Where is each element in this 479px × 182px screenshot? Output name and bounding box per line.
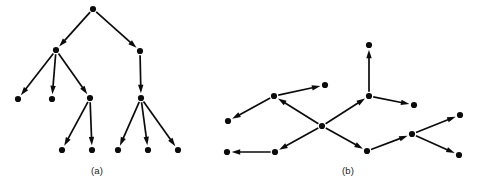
nodes-layer [15,6,463,158]
graph-node-b9 [409,131,415,137]
edge-a2-to-a4 [25,53,53,89]
graph-node-a10 [115,147,121,153]
graph-node-a3 [137,48,143,54]
edge-a7-to-a11 [142,102,147,138]
edge-group-panel-b [232,50,456,155]
graph-node-a1 [90,6,96,12]
graph-node-a4 [15,96,21,102]
arrowhead-b3-to-b2 [312,85,321,90]
arrowhead-a6-to-a9 [89,137,94,146]
graph-node-a5 [49,96,55,102]
graph-node-a8 [59,147,65,153]
edge-b7-to-b3 [284,102,318,124]
edge-a6-to-a9 [90,102,91,138]
arrowhead-a7-to-a10 [120,137,126,146]
edge-group-panel-a [21,12,175,146]
edge-a2-to-a6 [58,54,83,89]
edge-a6-to-a8 [68,102,88,140]
graph-node-b2 [322,82,328,88]
arrowhead-b7-to-b11 [279,143,288,149]
edge-a3-to-a7 [140,55,141,86]
graph-node-a11 [145,147,151,153]
edge-b3-to-b6 [238,98,270,115]
graph-node-b6 [225,118,231,124]
arrowhead-b9-to-b8 [447,117,456,123]
edge-a7-to-a12 [143,102,171,141]
edge-b9-to-b13 [416,136,448,150]
graph-node-a7 [138,95,144,101]
arrowhead-b3-to-b6 [232,112,241,118]
edges-layer [21,12,456,155]
graph-canvas [0,0,479,182]
graph-node-a6 [87,95,93,101]
arrowhead-b9-to-b13 [446,147,455,153]
arrowhead-b4-to-b1 [366,50,371,59]
arrowhead-a3-to-a7 [138,85,143,94]
arrowhead-b11-to-b10 [232,149,241,154]
graph-node-b1 [366,42,372,48]
edge-b12-to-b9 [371,138,401,149]
edge-b7-to-b12 [326,128,357,145]
arrowhead-b7-to-b3 [278,98,287,105]
figure-root: (a)(b) [0,0,479,182]
graph-node-a9 [89,147,95,153]
arrowhead-b7-to-b12 [354,142,363,148]
graph-node-b13 [456,152,462,158]
graph-node-b7 [319,123,325,129]
arrowhead-a7-to-a11 [144,137,149,146]
caption-panel-a: (a) [91,165,103,176]
graph-node-b3 [271,93,277,99]
arrowhead-b12-to-b9 [399,136,408,142]
edge-a1-to-a2 [64,12,90,41]
edge-b9-to-b8 [416,119,449,132]
edge-a7-to-a10 [123,102,140,139]
arrowhead-a2-to-a5 [50,86,55,95]
graph-node-a12 [175,147,181,153]
graph-node-b4 [366,93,372,99]
arrowhead-a6-to-a8 [64,137,70,146]
edge-b7-to-b11 [285,128,318,146]
graph-node-b5 [411,102,417,108]
edge-a1-to-a3 [96,12,131,43]
graph-node-a2 [53,47,59,53]
edge-b7-to-b4 [326,102,360,123]
graph-node-b8 [457,112,463,118]
edge-b3-to-b2 [278,87,313,95]
caption-panel-b: (b) [342,165,354,176]
graph-node-b10 [224,149,230,155]
node-group-panel-a [15,6,181,153]
edge-b4-to-b5 [373,97,402,103]
graph-node-b12 [364,148,370,154]
arrowhead-b7-to-b4 [356,99,365,106]
arrowhead-b4-to-b5 [401,100,410,105]
graph-node-b11 [272,149,278,155]
edge-a2-to-a5 [53,54,56,87]
